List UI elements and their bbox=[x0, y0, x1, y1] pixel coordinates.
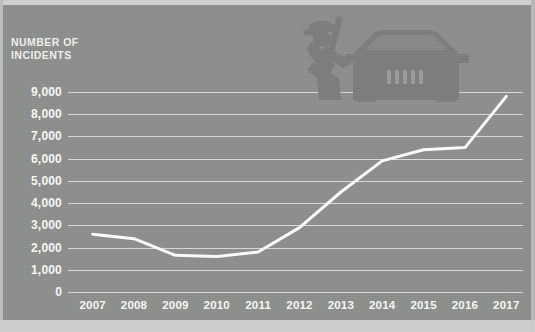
paper-margin-top bbox=[0, 0, 535, 5]
x-tick-label: 2016 bbox=[442, 299, 488, 311]
data-line bbox=[0, 0, 535, 332]
paper-margin-bottom bbox=[0, 320, 535, 332]
x-tick-label: 2015 bbox=[401, 299, 447, 311]
x-tick-label: 2007 bbox=[70, 299, 116, 311]
x-tick-label: 2017 bbox=[483, 299, 529, 311]
paper-margin-right bbox=[531, 0, 535, 332]
x-tick-label: 2013 bbox=[318, 299, 364, 311]
x-tick-label: 2011 bbox=[235, 299, 281, 311]
chart-figure: NUMBER OF INCIDENTS 01,0002,0003,0004,00… bbox=[0, 0, 535, 332]
x-tick-label: 2008 bbox=[111, 299, 157, 311]
x-tick-label: 2010 bbox=[194, 299, 240, 311]
paper-margin-left bbox=[0, 0, 3, 332]
x-axis-tick-labels: 2007200820092010201120122013201420152016… bbox=[68, 299, 523, 321]
x-tick-label: 2014 bbox=[359, 299, 405, 311]
x-tick-label: 2009 bbox=[152, 299, 198, 311]
x-tick-label: 2012 bbox=[277, 299, 323, 311]
